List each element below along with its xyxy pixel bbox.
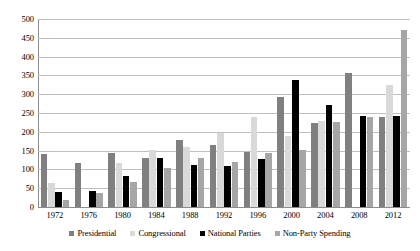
y-tick-label-500: 500 — [22, 15, 34, 24]
legend-label: Presidential — [77, 229, 116, 238]
bar-1984-congressional — [149, 150, 156, 207]
bar-1996-national-parties — [258, 159, 265, 207]
bar-1980-congressional — [116, 163, 123, 207]
legend-item-presidential[interactable]: Presidential — [69, 229, 116, 238]
y-tick-label-450: 450 — [22, 33, 34, 42]
bar-1988-congressional — [183, 147, 190, 207]
bar-1984-national-parties — [157, 158, 164, 207]
legend-swatch-icon — [130, 231, 135, 236]
legend-swatch-icon — [200, 231, 205, 236]
bar-group-2004 — [309, 19, 343, 207]
bar-2000-non-party-spending — [299, 150, 306, 207]
bar-2012-congressional — [386, 85, 393, 207]
bar-group-1976 — [72, 19, 106, 207]
x-tick-label-1980: 1980 — [106, 210, 140, 220]
bar-groups — [38, 19, 410, 207]
bar-1972-congressional — [48, 183, 55, 207]
bar-2000-congressional — [285, 136, 292, 207]
bar-1976-presidential — [75, 163, 82, 207]
bar-1988-non-party-spending — [198, 158, 205, 207]
bar-2008-national-parties — [360, 116, 367, 207]
bar-2008-presidential — [345, 73, 352, 207]
x-tick-label-1984: 1984 — [139, 210, 173, 220]
bar-1992-presidential — [210, 145, 217, 207]
y-tick-label-50: 50 — [26, 184, 34, 193]
bar-1980-presidential — [108, 153, 115, 207]
x-tick-label-1992: 1992 — [207, 210, 241, 220]
bar-1988-national-parties — [191, 165, 198, 207]
bar-1976-national-parties — [89, 191, 96, 207]
bar-group-1984 — [139, 19, 173, 207]
legend-swatch-icon — [69, 231, 74, 236]
bar-1976-non-party-spending — [96, 193, 103, 207]
bar-group-1972 — [38, 19, 72, 207]
bar-2012-non-party-spending — [401, 30, 408, 207]
gridline-0 — [38, 207, 410, 208]
y-tick-label-100: 100 — [22, 165, 34, 174]
bar-group-2008 — [342, 19, 376, 207]
legend-item-national-parties[interactable]: National Parties — [200, 229, 261, 238]
bar-2004-national-parties — [326, 105, 333, 207]
bar-1984-non-party-spending — [164, 168, 171, 207]
legend-label: National Parties — [208, 229, 261, 238]
x-tick-label-2004: 2004 — [309, 210, 343, 220]
x-tick-label-1996: 1996 — [241, 210, 275, 220]
bar-2012-national-parties — [393, 116, 400, 207]
x-axis: 1972197619801984198819921996200020042008… — [38, 210, 410, 220]
x-tick-label-2008: 2008 — [342, 210, 376, 220]
bar-group-1988 — [173, 19, 207, 207]
y-tick-label-400: 400 — [22, 52, 34, 61]
y-tick-label-300: 300 — [22, 90, 34, 99]
y-axis: 050100150200250300350400450500 — [0, 19, 34, 207]
bar-1984-presidential — [142, 158, 149, 207]
legend-swatch-icon — [275, 231, 280, 236]
y-tick-label-350: 350 — [22, 71, 34, 80]
x-tick-label-1972: 1972 — [38, 210, 72, 220]
bar-1972-presidential — [41, 154, 48, 207]
x-tick-label-1976: 1976 — [72, 210, 106, 220]
y-tick-label-0: 0 — [30, 203, 34, 212]
bar-1972-national-parties — [55, 192, 62, 207]
bar-1992-non-party-spending — [232, 162, 239, 207]
legend-item-non-party-spending[interactable]: Non-Party Spending — [275, 229, 351, 238]
bar-group-1996 — [241, 19, 275, 207]
y-tick-label-200: 200 — [22, 127, 34, 136]
x-tick-label-2000: 2000 — [275, 210, 309, 220]
y-tick-label-150: 150 — [22, 146, 34, 155]
bar-chart: 050100150200250300350400450500 197219761… — [0, 0, 420, 251]
bar-1988-presidential — [176, 140, 183, 207]
bar-2004-non-party-spending — [333, 122, 340, 207]
bar-1996-congressional — [251, 117, 258, 207]
bar-2004-presidential — [311, 123, 318, 207]
legend-label: Non-Party Spending — [283, 229, 351, 238]
bar-2008-non-party-spending — [367, 117, 374, 207]
bar-2000-presidential — [277, 97, 284, 207]
bar-1992-congressional — [217, 133, 224, 207]
bar-group-2000 — [275, 19, 309, 207]
bar-1972-non-party-spending — [63, 200, 70, 207]
bar-2004-congressional — [318, 121, 325, 207]
legend-item-congressional[interactable]: Congressional — [130, 229, 185, 238]
legend-label: Congressional — [138, 229, 185, 238]
bar-1996-non-party-spending — [265, 153, 272, 207]
bar-1996-presidential — [244, 152, 251, 207]
bar-1992-national-parties — [224, 166, 231, 207]
bar-1980-national-parties — [123, 176, 130, 207]
bar-1980-non-party-spending — [130, 182, 137, 207]
bar-2012-presidential — [379, 117, 386, 207]
bar-group-1980 — [106, 19, 140, 207]
bar-group-1992 — [207, 19, 241, 207]
plot-area — [38, 19, 410, 207]
y-tick-label-250: 250 — [22, 109, 34, 118]
chart-legend: PresidentialCongressionalNational Partie… — [0, 229, 420, 238]
bar-group-2012 — [376, 19, 410, 207]
x-tick-label-2012: 2012 — [376, 210, 410, 220]
x-tick-label-1988: 1988 — [173, 210, 207, 220]
bar-2000-national-parties — [292, 80, 299, 207]
